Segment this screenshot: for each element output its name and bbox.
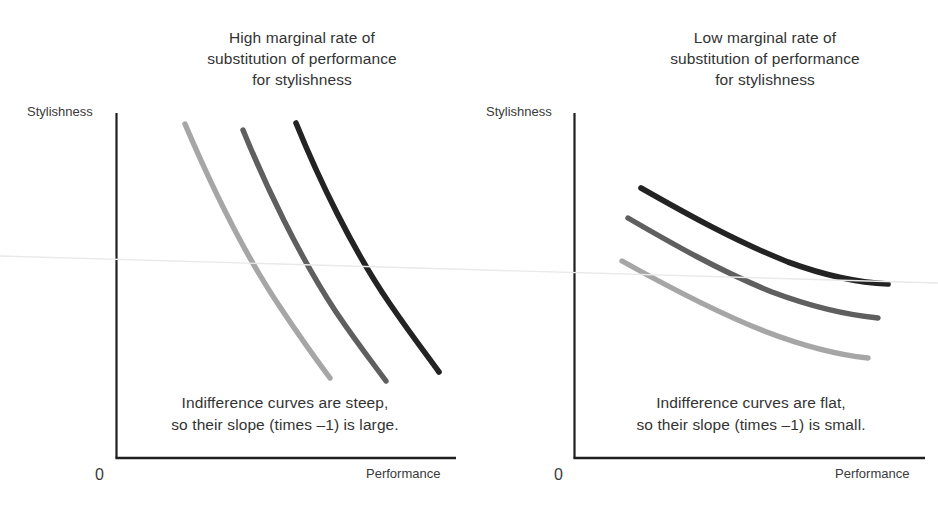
origin-label: 0	[554, 466, 563, 484]
indifference-curve-dark	[641, 188, 888, 284]
indifference-curve-dark	[296, 123, 439, 372]
indifference-curve-medium	[628, 218, 878, 318]
x-axis-label: Performance	[366, 466, 440, 481]
panel-high-mrs: High marginal rate of substitution of pe…	[0, 0, 469, 506]
panel-caption: Indifference curves are steep, so their …	[125, 392, 445, 436]
origin-label: 0	[95, 466, 104, 484]
panel-caption: Indifference curves are flat, so their s…	[591, 392, 911, 436]
x-axis-label: Performance	[835, 466, 909, 481]
figure-indifference-curves: High marginal rate of substitution of pe…	[0, 0, 938, 506]
panel-low-mrs: Low marginal rate of substitution of per…	[469, 0, 938, 506]
